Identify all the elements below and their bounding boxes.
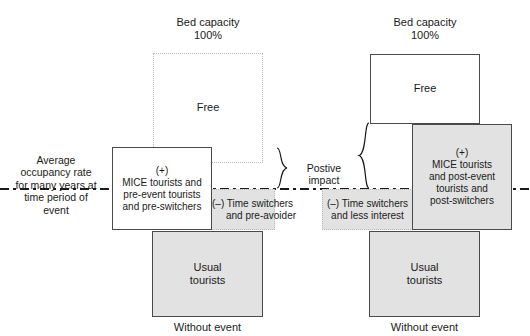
right-header-bed-capacity: Bed capacity 100% [370,16,480,42]
right-header-line2: 100% [370,29,480,42]
right-mice-line-1: MICE tourists [432,159,492,171]
axis-label-line-3: time period of [2,191,110,203]
left-negative-line-1: and pre-avoider [226,210,296,222]
right-footer-without-event: Without event [369,321,480,334]
left-usual-tourists-box: Usual tourists [152,231,263,317]
right-mice-line-2: and post-event [429,171,495,183]
left-header-line2: 100% [153,29,263,42]
left-mice-line-2: pre-event tourists [123,189,200,201]
right-free-box: Free [370,54,480,124]
right-mice-line-3: tourists and [436,183,488,195]
left-footer-without-event: Without event [152,321,263,334]
right-mice-box: (+) MICE tourists and post-event tourist… [412,124,512,230]
right-header-line1: Bed capacity [370,16,480,29]
right-negative-line-0: (–) Time switchers [327,198,408,210]
left-usual-line-1: tourists [190,274,225,287]
right-usual-line-1: tourists [407,274,442,287]
right-impact-brace-icon [356,122,370,189]
right-usual-line-0: Usual [410,261,438,274]
left-mice-line-3: and pre-switchers [123,201,202,213]
right-usual-tourists-box: Usual tourists [369,231,480,317]
left-mice-line-0: (+) [156,165,169,177]
right-negative-line-1: and less interest [331,210,404,222]
left-header-line1: Bed capacity [153,16,263,29]
left-mice-line-1: MICE tourists and [122,177,201,189]
left-negative-box: (–) Time switchers and pre-avoider [211,189,275,230]
right-mice-line-4: post-switchers [430,195,494,207]
positive-impact-label: Postive impact [292,162,356,187]
right-negative-box: (–) Time switchers and less interest [322,189,413,230]
left-header-bed-capacity: Bed capacity 100% [153,16,263,42]
left-negative-line-0: (–) Time switchers [212,198,293,210]
axis-label-line-4: event [2,204,110,216]
axis-label-average-occupancy: Average occupancy rate for many years at… [2,154,110,216]
right-mice-line-0: (+) [456,147,469,159]
axis-label-line-0: Average [2,154,110,166]
axis-label-line-1: occupancy rate [2,166,110,178]
right-free-label: Free [414,82,437,95]
left-free-label: Free [197,101,220,114]
left-mice-box: (+) MICE tourists and pre-event tourists… [112,147,212,230]
diagram-canvas: Bed capacity 100% Free (+) MICE tourists… [0,0,530,336]
left-usual-line-0: Usual [193,261,221,274]
left-impact-brace-icon [276,147,290,189]
